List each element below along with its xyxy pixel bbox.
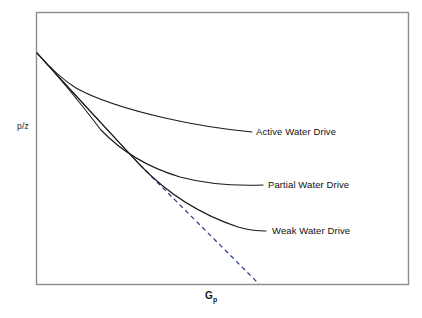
- curve-label-active-water-drive: Active Water Drive: [256, 126, 336, 137]
- plot-frame: [37, 13, 409, 285]
- pz-versus-gp-chart: p/z Gp Active Water Drive Partial Water …: [0, 0, 422, 318]
- curve-label-weak-water-drive: Weak Water Drive: [272, 225, 350, 236]
- x-axis-label: Gp: [205, 290, 217, 303]
- curve-partial-water-drive: [37, 53, 263, 185]
- curve-label-partial-water-drive: Partial Water Drive: [268, 179, 349, 190]
- x-axis-label-subscript: p: [213, 296, 217, 303]
- y-axis-label: p/z: [17, 121, 29, 131]
- x-axis-label-main: G: [205, 290, 213, 301]
- curve-active-water-drive: [37, 53, 252, 132]
- curve-weak-water-drive: [37, 53, 266, 231]
- plot-canvas: [0, 0, 422, 318]
- depletion-line-dashed-extrapolation: [140, 165, 259, 284]
